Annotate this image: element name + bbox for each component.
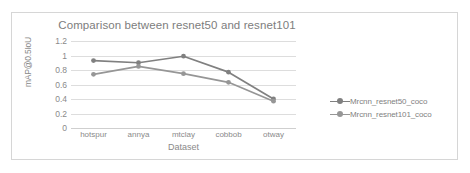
chart-frame[interactable]: Comparison between resnet50 and resnet10… xyxy=(11,12,458,160)
x-axis-title: Dataset xyxy=(71,142,296,152)
x-axis-line xyxy=(71,128,296,129)
y-axis-tick-labels: 1.210.80.60.40.20 xyxy=(38,41,67,128)
series-line xyxy=(94,56,274,99)
data-point-marker[interactable] xyxy=(226,70,231,75)
y-axis-tick-label: 1.2 xyxy=(55,37,67,46)
y-axis-tick-label: 0.4 xyxy=(55,95,67,104)
legend-item[interactable]: Mrcnn_resnet50_coco xyxy=(330,95,450,107)
legend-label: Mrcnn_resnet50_coco xyxy=(350,97,427,106)
legend-swatch-icon xyxy=(330,110,350,119)
data-point-marker[interactable] xyxy=(181,54,186,59)
data-point-marker[interactable] xyxy=(91,72,96,77)
y-axis-tick-label: 0 xyxy=(62,124,67,133)
x-axis-tick-label: otway xyxy=(263,131,284,139)
y-axis-tick-label: 0.6 xyxy=(55,80,67,89)
data-point-marker[interactable] xyxy=(136,64,141,69)
x-axis-tick-label: mtclay xyxy=(172,131,195,139)
data-point-marker[interactable] xyxy=(91,58,96,63)
plot-area[interactable] xyxy=(71,41,296,128)
x-axis-tick-label: cobbob xyxy=(215,131,241,139)
chart-title: Comparison between resnet50 and resnet10… xyxy=(12,19,342,31)
y-axis-tick-label: 0.2 xyxy=(55,109,67,118)
y-axis-tick-label: 0.8 xyxy=(55,66,67,75)
y-axis-tick-label: 1 xyxy=(62,51,67,60)
legend-swatch-icon xyxy=(330,97,350,106)
legend-item[interactable]: Mrcnn_resnet101_coco xyxy=(330,108,450,120)
x-axis-tick-label: hotspur xyxy=(80,131,107,139)
data-point-marker[interactable] xyxy=(271,99,276,104)
y-axis-title: mAP@0.5IoU xyxy=(23,26,33,98)
x-axis-tick-label: annya xyxy=(128,131,150,139)
data-point-marker[interactable] xyxy=(226,80,231,85)
data-point-marker[interactable] xyxy=(181,71,186,76)
chart-legend[interactable]: Mrcnn_resnet50_cocoMrcnn_resnet101_coco xyxy=(330,95,450,121)
legend-label: Mrcnn_resnet101_coco xyxy=(350,110,432,119)
series-lines xyxy=(71,41,296,128)
